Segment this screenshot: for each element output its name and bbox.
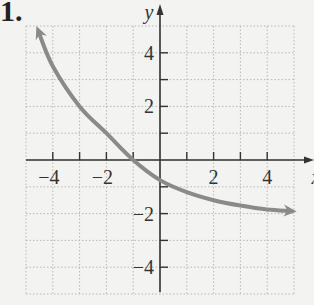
- x-axis-arrow-icon: [304, 157, 314, 164]
- x-tick-label: −4: [38, 166, 59, 188]
- x-axis-label: x: [311, 166, 314, 188]
- curve-path: [39, 34, 288, 211]
- graph: −4−22442−2−4xy: [0, 0, 314, 305]
- axes: [26, 4, 314, 292]
- y-axis-label: y: [143, 1, 154, 24]
- y-tick-label: −2: [133, 203, 154, 225]
- curve: [36, 26, 297, 217]
- y-tick-label: 4: [144, 42, 154, 64]
- x-tick-label: 2: [209, 166, 219, 188]
- x-tick-label: −2: [92, 166, 113, 188]
- x-tick-label: 4: [262, 166, 272, 188]
- y-axis-arrow-icon: [157, 4, 164, 15]
- y-tick-label: −4: [133, 256, 154, 278]
- y-tick-label: 2: [144, 95, 154, 117]
